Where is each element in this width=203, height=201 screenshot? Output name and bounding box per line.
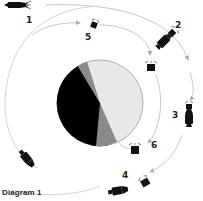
diagram-canvas (0, 0, 203, 201)
position-label-1: 1 (26, 16, 32, 25)
position-label-4: 4 (122, 171, 128, 180)
position-label-2: 2 (175, 21, 181, 30)
moon (57, 60, 143, 148)
spacecraft-3-icon (185, 101, 193, 127)
position-label-3: 3 (172, 111, 178, 120)
lunar-module-icon (145, 61, 157, 71)
inner-orbit-path-2 (100, 25, 150, 55)
position-label-6: 6 (151, 141, 157, 150)
inner-orbit-right (148, 75, 161, 143)
outer-orbit-path-2 (190, 72, 193, 100)
spacecraft-1-icon (4, 1, 31, 9)
spacecraft-5-icon (89, 18, 100, 29)
spacecraft-4-lm-icon (138, 174, 152, 188)
outer-orbit-path (46, 5, 188, 60)
diagram-caption: Diagram 1 (2, 188, 42, 197)
position-label-5: 5 (85, 33, 91, 42)
inner-orbit-path (32, 23, 80, 35)
spacecraft-4-csm-icon (108, 185, 129, 196)
command-module-left-icon (17, 148, 36, 168)
